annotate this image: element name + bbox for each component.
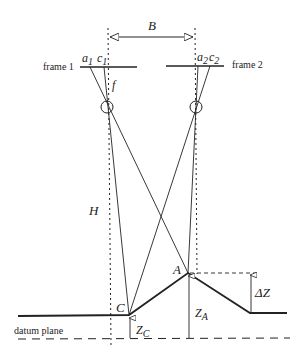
camera1-axis: [108, 28, 111, 346]
a2-label: a2: [197, 50, 208, 66]
camera2-axis: [195, 28, 197, 274]
focal-label: f: [112, 78, 117, 92]
height-label: H: [88, 203, 99, 218]
ray-a1-to-A: [90, 67, 188, 273]
zC-label: ZC: [136, 323, 150, 339]
pointC-label: C: [116, 300, 125, 315]
baseline-label: B: [148, 18, 156, 33]
c1-label: c1: [97, 51, 107, 67]
frame1-label: frame 1: [43, 61, 74, 72]
c2-label: c2: [209, 50, 219, 66]
datum-plane-label: datum plane: [14, 325, 64, 336]
pointA-label: A: [172, 262, 181, 277]
ray-c1-to-C: [104, 67, 129, 315]
stereo-diagram: B frame 1 frame 2 a1 c1 a2 c2 f H ΔZ ZA …: [0, 0, 303, 358]
a1-label: a1: [82, 51, 93, 67]
ray-c2-to-C: [129, 66, 210, 315]
datum-plane-line: [18, 338, 290, 339]
zA-label: ZA: [195, 306, 209, 322]
frame2-label: frame 2: [232, 59, 263, 70]
terrain-profile: [18, 273, 287, 316]
deltaZ-label: ΔZ: [254, 285, 271, 300]
